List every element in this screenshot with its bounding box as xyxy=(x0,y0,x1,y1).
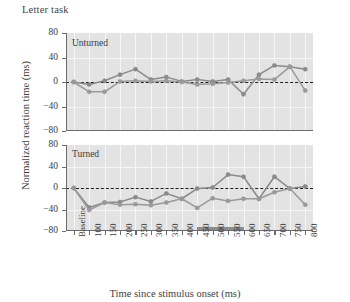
data-point xyxy=(72,80,76,84)
data-point xyxy=(288,187,292,191)
y-tick-label: 40 xyxy=(32,161,58,171)
data-point xyxy=(133,202,137,206)
x-tick-mark xyxy=(259,231,260,235)
x-tick-label: 600 xyxy=(247,224,257,238)
figure-title: Letter task xyxy=(22,4,69,15)
x-tick-label: 350 xyxy=(170,224,180,238)
x-tick-mark xyxy=(197,231,198,235)
data-line-series-b xyxy=(74,188,306,210)
data-point xyxy=(87,208,91,212)
x-tick-label: 200 xyxy=(124,224,134,238)
y-tick-label: 0 xyxy=(32,76,58,86)
x-tick-label: 150 xyxy=(108,224,118,238)
data-point xyxy=(272,78,276,82)
data-point xyxy=(149,203,153,207)
data-point xyxy=(103,90,107,94)
data-point xyxy=(211,196,215,200)
data-point xyxy=(87,90,91,94)
y-tick-label: −40 xyxy=(32,101,58,111)
y-tick-mark xyxy=(62,210,66,211)
data-point xyxy=(133,67,137,71)
y-tick-mark xyxy=(62,167,66,168)
x-tick-mark xyxy=(290,231,291,235)
data-point xyxy=(303,89,307,93)
data-point xyxy=(257,197,261,201)
y-tick-label: −80 xyxy=(32,125,58,135)
data-point xyxy=(149,199,153,203)
figure-root: Letter task Normalized reaction time (ms… xyxy=(0,0,350,302)
x-tick-label: 650 xyxy=(262,224,272,238)
y-tick-label: 80 xyxy=(32,139,58,149)
x-tick-label: 550 xyxy=(232,224,242,238)
data-point xyxy=(149,79,153,83)
data-point xyxy=(133,79,137,83)
x-tick-mark xyxy=(244,231,245,235)
data-point xyxy=(72,186,76,190)
data-point xyxy=(242,197,246,201)
data-point xyxy=(257,77,261,81)
x-tick-mark xyxy=(89,231,90,235)
x-tick-label: 250 xyxy=(139,224,149,238)
data-point xyxy=(303,203,307,207)
data-point xyxy=(164,191,168,195)
data-point xyxy=(272,63,276,67)
y-tick-mark xyxy=(62,58,66,59)
data-point xyxy=(288,65,292,69)
x-tick-mark xyxy=(182,231,183,235)
data-point xyxy=(180,197,184,201)
data-point xyxy=(226,173,230,177)
data-point xyxy=(103,201,107,205)
data-point xyxy=(195,78,199,82)
y-tick-mark xyxy=(62,82,66,83)
y-tick-label: 80 xyxy=(32,27,58,37)
x-tick-mark xyxy=(213,231,214,235)
data-point xyxy=(118,79,122,83)
y-tick-label: 0 xyxy=(32,182,58,192)
series-layer-turned xyxy=(66,145,313,231)
data-point xyxy=(257,73,261,77)
data-point xyxy=(272,190,276,194)
y-tick-mark xyxy=(62,231,66,232)
data-point xyxy=(303,67,307,71)
x-axis-label: Time since stimulus onset (ms) xyxy=(0,288,350,299)
data-point xyxy=(164,201,168,205)
x-tick-label: 750 xyxy=(293,224,303,238)
x-tick-mark xyxy=(274,231,275,235)
x-tick-label: 800 xyxy=(309,224,319,238)
data-point xyxy=(211,82,215,86)
x-tick-mark xyxy=(151,231,152,235)
data-point xyxy=(87,82,91,86)
x-tick-label: 100 xyxy=(93,224,103,238)
data-point xyxy=(195,82,199,86)
x-tick-mark xyxy=(120,231,121,235)
x-tick-label: 700 xyxy=(278,224,288,238)
panel-tag-turned: Turned xyxy=(72,149,99,159)
data-point xyxy=(303,184,307,188)
y-tick-mark xyxy=(62,188,66,189)
y-tick-mark xyxy=(62,145,66,146)
x-tick-mark xyxy=(105,231,106,235)
x-tick-label: 400 xyxy=(185,224,195,238)
data-point xyxy=(226,199,230,203)
data-point xyxy=(195,206,199,210)
x-tick-mark xyxy=(135,231,136,235)
y-tick-label: −80 xyxy=(32,225,58,235)
data-point xyxy=(242,92,246,96)
data-point xyxy=(103,79,107,83)
x-tick-label: 500 xyxy=(216,224,226,238)
panel-unturned: Unturned xyxy=(66,33,313,131)
y-tick-label: 40 xyxy=(32,52,58,62)
data-point xyxy=(180,80,184,84)
data-point xyxy=(133,195,137,199)
data-point xyxy=(195,187,199,191)
y-tick-mark xyxy=(62,131,66,132)
data-point xyxy=(242,79,246,83)
data-point xyxy=(226,81,230,85)
x-tick-mark xyxy=(228,231,229,235)
data-point xyxy=(242,175,246,179)
y-tick-mark xyxy=(62,107,66,108)
data-point xyxy=(164,79,168,83)
data-point xyxy=(211,185,215,189)
y-tick-label: −40 xyxy=(32,204,58,214)
x-tick-label: 450 xyxy=(201,224,211,238)
